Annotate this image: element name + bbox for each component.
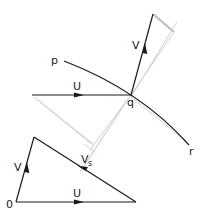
- vector-v-top: [131, 14, 153, 95]
- label-r: r: [189, 145, 194, 158]
- velocity-diagram: p q r U V V U V s 0: [0, 0, 207, 221]
- label-p: p: [51, 54, 58, 67]
- label-u-top: U: [73, 80, 81, 93]
- label-q: q: [127, 96, 134, 109]
- arrowhead-u-tri: [74, 200, 84, 205]
- label-v-tri: V: [14, 161, 22, 174]
- construction-lines: [34, 14, 186, 172]
- arrowhead-u-top: [74, 93, 84, 98]
- label-v-top: V: [132, 39, 140, 52]
- label-u-tri: U: [73, 187, 81, 200]
- label-vs-subscript: s: [88, 159, 92, 168]
- label-origin: 0: [6, 198, 13, 211]
